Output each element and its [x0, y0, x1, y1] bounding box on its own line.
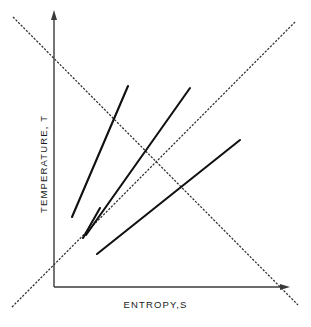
x-axis-arrow-icon	[280, 284, 290, 290]
guide-lines-group	[12, 17, 298, 307]
descending-dashed-guide-line	[13, 17, 298, 305]
steep-process-line-3	[83, 208, 100, 238]
process-lines-group	[72, 86, 240, 254]
y-axis-arrow-icon	[51, 10, 57, 20]
steep-process-line-2	[86, 88, 190, 235]
axes-group	[51, 10, 290, 290]
temperature-entropy-diagram: ENTROPY,S TEMPERATURE, T	[0, 0, 311, 327]
x-axis-label: ENTROPY,S	[0, 299, 311, 310]
y-axis-label: TEMPERATURE, T	[38, 115, 49, 213]
shallow-process-line	[97, 140, 240, 254]
